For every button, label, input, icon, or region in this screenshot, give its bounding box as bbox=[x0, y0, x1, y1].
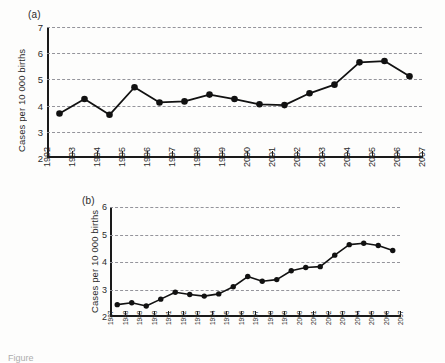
data-point-marker bbox=[156, 99, 163, 106]
data-point-marker bbox=[332, 252, 337, 257]
data-point-marker bbox=[376, 243, 381, 248]
data-point-marker bbox=[256, 101, 263, 108]
data-point-marker bbox=[347, 242, 352, 247]
data-point-marker bbox=[381, 58, 388, 65]
data-point-marker bbox=[406, 73, 413, 80]
panel-a-label: (a) bbox=[28, 9, 41, 20]
data-point-marker bbox=[216, 291, 221, 296]
data-series bbox=[110, 207, 400, 317]
data-series bbox=[47, 27, 422, 158]
series-line bbox=[117, 243, 393, 306]
data-point-marker bbox=[390, 248, 395, 253]
data-point-marker bbox=[361, 241, 366, 246]
data-point-marker bbox=[331, 81, 338, 88]
data-point-marker bbox=[206, 91, 213, 98]
data-point-marker bbox=[303, 265, 308, 270]
y-axis-tick-label: 5 bbox=[102, 230, 107, 240]
data-point-marker bbox=[274, 277, 279, 282]
series-line bbox=[60, 61, 410, 115]
panel-b-plot-area: 2345619871988198919901991199219931994199… bbox=[110, 207, 400, 317]
panel-b-y-axis-label: Cases per 10 000 births bbox=[89, 209, 100, 313]
data-point-marker bbox=[158, 296, 163, 301]
data-point-marker bbox=[289, 268, 294, 273]
data-point-marker bbox=[231, 284, 236, 289]
y-axis-tick-label: 5 bbox=[38, 74, 43, 85]
chart-panel-b: (b) Cases per 10 000 births 234561987198… bbox=[0, 193, 445, 362]
chart-panel-a: (a) Cases per 10 000 births 234567199219… bbox=[0, 0, 445, 196]
data-point-marker bbox=[318, 264, 323, 269]
data-point-marker bbox=[106, 111, 113, 118]
y-axis-tick-label: 3 bbox=[38, 126, 43, 137]
data-point-marker bbox=[281, 102, 288, 109]
data-point-marker bbox=[260, 279, 265, 284]
panel-b-label: (b) bbox=[82, 195, 95, 206]
data-point-marker bbox=[173, 290, 178, 295]
data-point-marker bbox=[81, 96, 88, 103]
data-point-marker bbox=[306, 90, 313, 97]
panel-a-y-axis-label: Cases per 10 000 births bbox=[16, 30, 27, 152]
y-axis-tick-label: 4 bbox=[102, 257, 107, 267]
data-point-marker bbox=[144, 303, 149, 308]
data-point-marker bbox=[181, 98, 188, 105]
data-point-marker bbox=[356, 59, 363, 66]
data-point-marker bbox=[115, 302, 120, 307]
data-point-marker bbox=[202, 293, 207, 298]
figure-caption: Figure bbox=[8, 353, 34, 363]
data-point-marker bbox=[231, 96, 238, 103]
data-point-marker bbox=[56, 110, 63, 117]
y-axis-tick-label: 4 bbox=[38, 100, 43, 111]
y-axis-tick-label: 3 bbox=[102, 285, 107, 295]
y-axis-tick-label: 6 bbox=[102, 202, 107, 212]
y-axis-tick-label: 7 bbox=[38, 22, 43, 33]
data-point-marker bbox=[245, 274, 250, 279]
data-point-marker bbox=[187, 292, 192, 297]
data-point-marker bbox=[131, 84, 138, 91]
panel-a-plot-area: 2345671992199319941995199619971998199920… bbox=[47, 27, 422, 158]
y-axis-tick-label: 6 bbox=[38, 48, 43, 59]
data-point-marker bbox=[129, 300, 134, 305]
